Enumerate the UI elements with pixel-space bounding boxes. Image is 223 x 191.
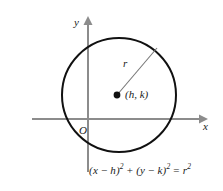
circle-equation: (x − h)2 + (y − k)2 = r2: [89, 164, 191, 176]
x-axis-label: x: [203, 121, 208, 132]
x-axis: [32, 115, 208, 124]
equation-minus-2: −: [145, 164, 157, 176]
y-axis-arrowhead: [84, 16, 93, 25]
equation-equals: =: [170, 164, 182, 176]
y-axis-label: y: [74, 17, 79, 28]
center-point-dot: [114, 92, 121, 99]
circle-diagram-figure: y x O r (h, k) (x − h)2 + (y − k)2 = r2: [0, 0, 223, 191]
equation-plus: +: [124, 164, 136, 176]
y-axis: [84, 16, 93, 172]
equation-exponent-3: 2: [187, 162, 191, 171]
center-point-label: (h, k): [125, 89, 148, 100]
equation-minus-1: −: [98, 164, 110, 176]
origin-label: O: [79, 125, 87, 136]
radius-label: r: [123, 58, 127, 69]
